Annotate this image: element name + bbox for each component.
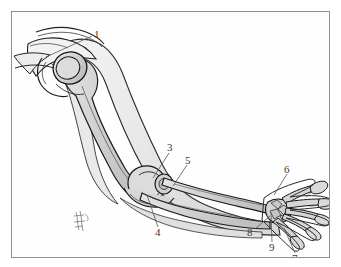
callout-label-6: 6 (284, 164, 290, 175)
callout-label-3: 3 (167, 142, 173, 153)
anatomical-illustration (12, 12, 330, 258)
figure-frame: 1 3 5 4 6 8 9 7 (11, 11, 330, 258)
callout-label-9: 9 (269, 242, 275, 253)
leader-6 (274, 174, 287, 195)
figure-root: 1 3 5 4 6 8 9 7 (0, 0, 341, 267)
callout-label-1: 1 (94, 29, 100, 40)
callout-label-8: 8 (247, 227, 253, 238)
callout-label-5: 5 (185, 155, 191, 166)
callout-label-7: 7 (292, 253, 298, 258)
artist-signature (74, 211, 88, 231)
callout-label-4: 4 (155, 227, 161, 238)
